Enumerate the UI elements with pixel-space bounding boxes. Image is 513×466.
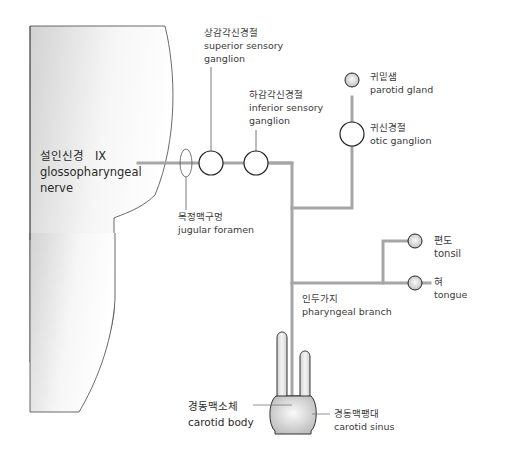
otic-ganglion-label: 귀신경절 otic ganglion: [370, 121, 431, 147]
jugular-foramen-label: 목정맥구멍 jugular foramen: [178, 210, 254, 236]
parotid-gland-label: 귀밑샘 parotid gland: [370, 70, 433, 96]
nerve-label-en-1: glossopharyngeal: [40, 164, 142, 180]
skull-lower-shape: [30, 233, 115, 412]
carotid-sinus-label: 경동맥팽대 carotid sinus: [334, 407, 395, 433]
glossopharyngeal-nerve-diagram: [0, 0, 513, 466]
superior-ganglion-node: [199, 151, 223, 175]
tonsil-label: 편도tonsil: [434, 234, 461, 260]
tonsil-node: [408, 234, 422, 248]
tongue-node: [408, 276, 422, 290]
pharyngeal-branch-label: 인두가지 pharyngeal branch: [302, 292, 392, 318]
tongue-label: 혀tongue: [434, 275, 467, 301]
superior-ganglion-label: 상감각신경절 superior sensory ganglion: [204, 26, 283, 65]
nerve-label-en-2: nerve: [40, 180, 142, 196]
inferior-ganglion-node: [244, 151, 268, 175]
nerve-label-ko: 설인신경 IX: [40, 149, 106, 163]
nerve-label: 설인신경 IX glossopharyngeal nerve: [40, 148, 142, 196]
otic-ganglion-node: [340, 122, 364, 146]
inferior-ganglion-label: 하감각신경절 inferior sensory ganglion: [249, 88, 323, 127]
parotid-gland-node: [345, 73, 359, 87]
carotid-body-label: 경동맥소체 carotid body: [188, 398, 254, 430]
